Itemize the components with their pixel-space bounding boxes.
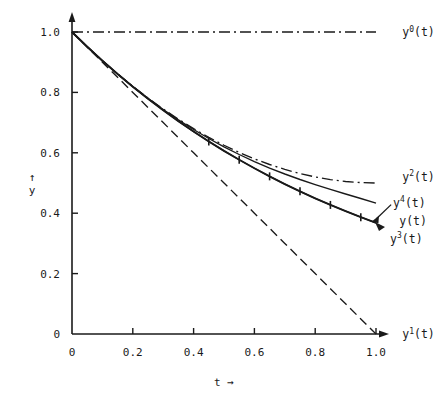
curve-label-y1: y1(t) [402, 327, 435, 342]
figure-canvas: 00.20.40.60.81.000.20.40.60.81.0 y0(t)y1… [0, 0, 444, 402]
curve-label-y0: y0(t) [402, 25, 435, 40]
y-tick-label: 0.6 [40, 147, 60, 160]
y-tick-label: 0.2 [40, 268, 60, 281]
x-tick-label: 0.6 [244, 346, 264, 359]
x-tick-label: 1.0 [366, 346, 386, 359]
y-tick-label: 0 [53, 328, 60, 341]
chart-background [0, 0, 444, 402]
curve-label-y4: y4(t) [393, 195, 426, 210]
y-axis-title: y [29, 184, 36, 197]
label-tail: (t) [414, 170, 435, 184]
x-tick-label: 0 [69, 346, 76, 359]
y-tick-label: 0.4 [40, 207, 60, 220]
line-chart: 00.20.40.60.81.000.20.40.60.81.0 y0(t)y1… [0, 0, 444, 402]
label-base: y [390, 232, 397, 246]
curve-label-y: y(t) [399, 214, 427, 228]
label-tail: (t) [406, 214, 427, 228]
label-tail: (t) [405, 196, 426, 210]
label-tail: (t) [414, 327, 435, 341]
y-axis-arrow-glyph: ↑ [29, 171, 36, 184]
x-tick-label: 0.8 [305, 346, 325, 359]
y-tick-label: 0.8 [40, 86, 60, 99]
label-tail: (t) [414, 25, 435, 39]
x-tick-label: 0.2 [123, 346, 143, 359]
x-tick-label: 0.4 [184, 346, 204, 359]
y-tick-label: 1.0 [40, 26, 60, 39]
label-tail: (t) [402, 232, 423, 246]
x-axis-title: t → [214, 376, 234, 389]
curve-label-y3: y3(t) [390, 231, 423, 246]
curve-label-y2: y2(t) [402, 169, 435, 184]
